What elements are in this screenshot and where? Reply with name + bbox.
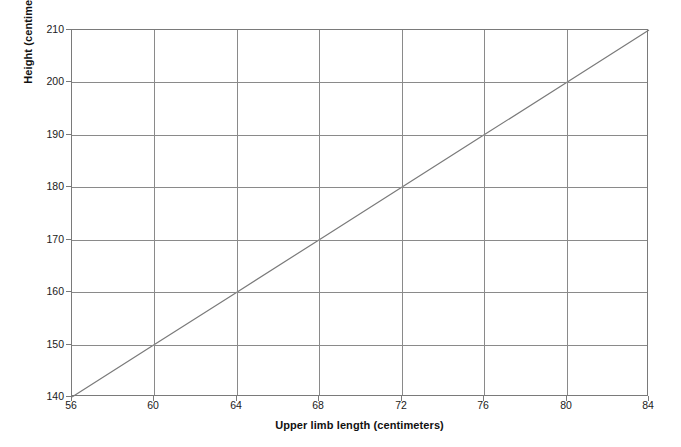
gridline-vertical [154,30,155,395]
x-axis-tick-label: 72 [381,399,421,412]
chart-container: Upper limb length (centimeters) Height (… [0,0,681,447]
y-axis-tick-label: 190 [30,128,64,140]
gridline-horizontal [72,240,647,241]
y-axis-tick-label: 210 [30,23,64,35]
x-axis-tick-label: 84 [628,399,668,412]
gridline-vertical [484,30,485,395]
y-axis-tick-label: 140 [30,390,64,402]
x-axis-tick-label: 68 [298,399,338,412]
gridline-horizontal [72,345,647,346]
y-axis-tick-label: 160 [30,285,64,297]
x-axis-tick-label: 60 [133,399,173,412]
y-axis-tick-label: 200 [30,75,64,87]
gridline-horizontal [72,135,647,136]
y-axis-tick-label: 150 [30,338,64,350]
x-axis-title: Upper limb length (centimeters) [71,419,648,431]
x-axis-tick-label: 76 [463,399,503,412]
y-axis-tick [66,186,71,187]
gridline-vertical [319,30,320,395]
gridline-vertical [237,30,238,395]
y-axis-tick [66,81,71,82]
data-series-line [72,30,649,397]
y-axis-tick [66,344,71,345]
gridline-horizontal [72,82,647,83]
y-axis-tick [66,396,71,397]
y-axis-tick-label: 170 [30,233,64,245]
plot-area [71,29,648,396]
y-axis-tick [66,291,71,292]
x-axis-tick-label: 64 [216,399,256,412]
gridline-horizontal [72,292,647,293]
y-axis-tick [66,134,71,135]
y-axis-tick-label: 180 [30,180,64,192]
gridline-vertical [402,30,403,395]
y-axis-tick [66,29,71,30]
gridline-vertical [567,30,568,395]
y-axis-tick [66,239,71,240]
x-axis-tick-label: 80 [546,399,586,412]
data-line-layer [72,30,649,397]
gridline-horizontal [72,187,647,188]
